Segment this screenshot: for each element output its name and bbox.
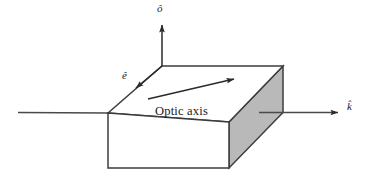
optic-axis-figure: ô ê k̂ Optic axis [0, 0, 370, 184]
optic-axis-label: Optic axis [155, 105, 208, 118]
k-axis-incoming-line [18, 113, 108, 114]
k-hat-axis-label: k̂ [347, 101, 352, 112]
o-hat-axis-label: ô [157, 3, 163, 14]
e-hat-axis-label: ê [122, 70, 127, 81]
figure-canvas [0, 0, 370, 184]
slab-front-face [108, 113, 229, 168]
